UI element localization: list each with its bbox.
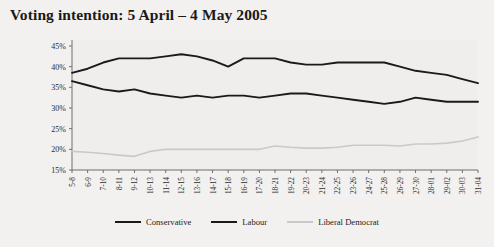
x-axis-tick-label: 16-19 <box>240 177 249 194</box>
legend-label: Conservative <box>146 218 191 227</box>
chart-legend: ConservativeLabourLiberal Democrat <box>0 218 494 227</box>
x-axis-tick-label: 27-30 <box>412 177 421 194</box>
x-axis-tick-label: 9-12 <box>130 177 139 191</box>
x-axis-tick-label: 26-29 <box>396 177 405 194</box>
x-axis-tick-label: 20-23 <box>302 177 311 194</box>
x-axis-tick-label: 7-10 <box>99 177 108 191</box>
x-axis-tick-label: 18-21 <box>271 177 280 194</box>
x-axis-tick-label: 14-17 <box>209 177 218 194</box>
x-axis-tick-label: 31-04 <box>474 177 483 194</box>
x-axis-tick-label: 11-14 <box>162 177 171 194</box>
line-chart-svg: 15%20%25%30%35%40%45%5-86-97-108-119-121… <box>0 0 494 247</box>
x-axis-tick-label: 6-9 <box>84 177 93 187</box>
x-axis-tick-label: 22-25 <box>333 177 342 194</box>
y-axis-tick-label: 35% <box>51 83 66 92</box>
legend-item-liberal-democrat[interactable]: Liberal Democrat <box>287 218 379 227</box>
x-axis-tick-label: 8-11 <box>115 177 124 190</box>
y-axis-tick-label: 15% <box>51 166 66 175</box>
x-axis-tick-label: 24-27 <box>365 177 374 194</box>
y-axis-tick-label: 25% <box>51 125 66 134</box>
legend-item-conservative[interactable]: Conservative <box>115 218 191 227</box>
y-axis-tick-label: 45% <box>51 42 66 51</box>
x-axis-tick-label: 21-24 <box>318 177 327 194</box>
x-axis-tick-label: 17-20 <box>255 177 264 194</box>
legend-swatch <box>115 221 141 223</box>
plot-background <box>72 40 478 170</box>
x-axis-tick-label: 12-15 <box>177 177 186 194</box>
legend-swatch <box>287 221 313 223</box>
x-axis-tick-label: 29-02 <box>443 177 452 194</box>
y-axis-tick-label: 40% <box>51 63 66 72</box>
x-axis-tick-label: 5-8 <box>68 177 77 187</box>
x-axis-tick-label: 10-13 <box>146 177 155 194</box>
x-axis-tick-label: 15-18 <box>224 177 233 194</box>
legend-label: Liberal Democrat <box>318 218 379 227</box>
legend-swatch <box>211 221 237 223</box>
x-axis-tick-label: 23-26 <box>349 177 358 194</box>
x-axis-tick-label: 13-16 <box>193 177 202 194</box>
y-axis-tick-label: 20% <box>51 145 66 154</box>
x-axis-tick-label: 19-22 <box>287 177 296 194</box>
x-axis-tick-label: 25-28 <box>380 177 389 194</box>
y-axis-tick-label: 30% <box>51 104 66 113</box>
chart-plot-area: 15%20%25%30%35%40%45%5-86-97-108-119-121… <box>0 0 494 247</box>
legend-label: Labour <box>242 218 267 227</box>
x-axis-tick-label: 28-01 <box>427 177 436 194</box>
x-axis-tick-label: 30-03 <box>458 177 467 194</box>
legend-item-labour[interactable]: Labour <box>211 218 267 227</box>
